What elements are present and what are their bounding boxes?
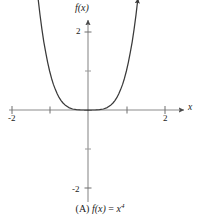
y-tick-label-plus-2: 2 bbox=[76, 27, 81, 36]
x-tick-label-plus-2: 2 bbox=[163, 114, 168, 123]
caption-part-label: (A) bbox=[76, 203, 90, 214]
caption-equals-sign: = bbox=[108, 203, 114, 214]
caption-function-argument: (x) bbox=[95, 203, 106, 214]
x-axis-label: x bbox=[188, 103, 192, 113]
plot-canvas bbox=[0, 0, 200, 221]
function-graph-figure: f(x) x -2 2 2 -2 (A) f(x) = x4 bbox=[0, 0, 200, 221]
y-tick-label-minus-2: -2 bbox=[72, 185, 80, 194]
x-tick-label-minus-2: -2 bbox=[8, 114, 16, 123]
y-axis-label: f(x) bbox=[75, 3, 89, 13]
curve-branch-left bbox=[38, 0, 88, 110]
curve-branch-right bbox=[88, 0, 138, 110]
caption-exponent: 4 bbox=[121, 202, 125, 210]
figure-caption: (A) f(x) = x4 bbox=[0, 203, 200, 214]
